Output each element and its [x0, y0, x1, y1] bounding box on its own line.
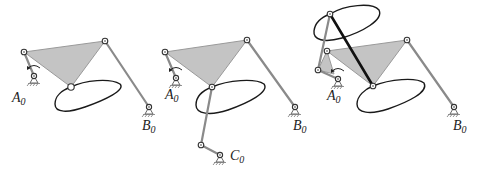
joint-top: [102, 38, 108, 44]
ground-pivot-a0-icon: [27, 73, 40, 86]
joint-upper-left: [324, 48, 330, 54]
joint-top: [244, 37, 250, 43]
joint-left: [21, 49, 27, 55]
rocker-link: [247, 40, 295, 107]
label-b0: B0: [142, 118, 156, 135]
dyad-link-1: [201, 87, 212, 145]
panel-2: A0 B0 C0: [162, 37, 306, 165]
joint-left: [162, 49, 168, 55]
joint-lower-left: [315, 67, 321, 73]
joint-coupler-point: [209, 84, 215, 90]
ground-pivot-b0-icon: [288, 104, 301, 117]
lower-coupler-curve: [357, 79, 425, 112]
joint-right: [404, 37, 410, 43]
joint-coupler-point: [370, 83, 376, 89]
panel-3: A0 B0: [314, 5, 467, 135]
rocker-link: [105, 41, 149, 107]
ground-pivot-b0-icon: [142, 104, 155, 117]
label-a0: A0: [326, 88, 341, 105]
label-b0: B0: [453, 118, 467, 135]
joint-top: [327, 11, 333, 17]
linkage-diagram: A0 B0 A0 B0 C0: [0, 0, 486, 169]
ground-pivot-c0-icon: [213, 152, 226, 165]
coupler-curve: [196, 80, 265, 113]
ground-pivot-b0-icon: [447, 104, 460, 117]
panel-1: A0 B0: [11, 38, 156, 135]
joint-coupler-point: [68, 84, 74, 90]
label-b0: B0: [293, 118, 307, 135]
coupler-curve: [55, 80, 121, 111]
label-a0: A0: [164, 87, 179, 104]
joint-dyad: [198, 142, 204, 148]
label-a0: A0: [11, 90, 26, 107]
label-c0: C0: [230, 148, 244, 165]
upper-coupler-curve: [314, 5, 380, 40]
